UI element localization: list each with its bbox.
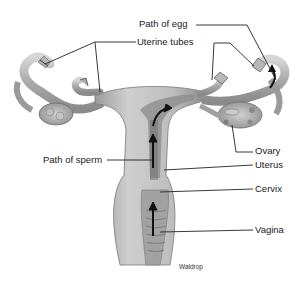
- right-ovary: [218, 102, 262, 128]
- label-path-of-sperm: Path of sperm: [43, 155, 102, 165]
- illustrator-credit: Waldrop: [179, 263, 203, 270]
- label-uterus: Uterus: [255, 160, 283, 170]
- label-ovary: Ovary: [255, 146, 280, 156]
- label-path-of-egg: Path of egg: [139, 19, 188, 29]
- left-ovary: [39, 103, 73, 125]
- label-vagina: Vagina: [255, 225, 284, 235]
- label-uterine-tubes: Uterine tubes: [137, 37, 194, 47]
- label-cervix: Cervix: [255, 184, 282, 194]
- reproductive-system-diagram: Path of egg Uterine tubes Ovary Path of …: [0, 0, 303, 284]
